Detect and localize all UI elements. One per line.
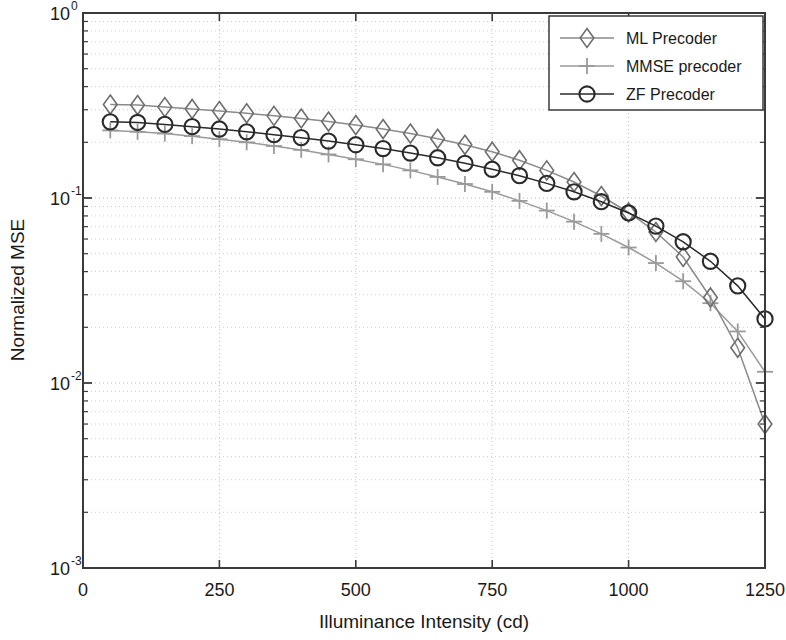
x-tick-label: 0: [78, 580, 88, 600]
chart-legend[interactable]: ML PrecoderMMSE precoderZF Precoder: [549, 16, 763, 110]
y-axis-label: Normalized MSE: [7, 219, 28, 362]
legend-label: ZF Precoder: [626, 86, 716, 103]
svg-text:10: 10: [50, 559, 70, 579]
svg-text:-1: -1: [71, 184, 82, 198]
svg-text:10: 10: [50, 374, 70, 394]
legend-item-zf-precoder[interactable]: ZF Precoder: [560, 86, 716, 103]
x-tick-label: 500: [341, 580, 371, 600]
x-tick-label: 1250: [745, 580, 785, 600]
x-tick-label: 1000: [609, 580, 649, 600]
svg-text:10: 10: [50, 4, 70, 24]
x-axis-label: Illuminance Intensity (cd): [319, 611, 529, 632]
legend-item-mmse-precoder[interactable]: MMSE precoder: [560, 58, 742, 75]
svg-text:-3: -3: [71, 554, 82, 568]
svg-text:10: 10: [50, 189, 70, 209]
legend-label: MMSE precoder: [626, 58, 742, 75]
x-tick-label: 750: [477, 580, 507, 600]
chart-figure: 025050075010001250 10010-110-210-3 Illum…: [0, 0, 786, 640]
legend-label: ML Precoder: [626, 30, 718, 47]
svg-text:0: 0: [71, 0, 78, 13]
x-tick-label: 250: [204, 580, 234, 600]
svg-text:-2: -2: [71, 369, 82, 383]
